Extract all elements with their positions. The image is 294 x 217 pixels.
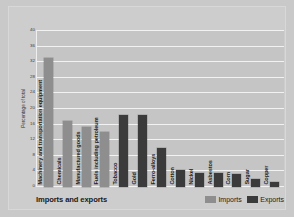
y-axis-tick-label: 24 <box>30 90 35 94</box>
bar-slot: Corn <box>227 31 246 187</box>
bar-category-label: Chemicals <box>57 158 63 185</box>
legend-entry[interactable]: Imports <box>205 196 242 203</box>
bar-category-label: Machinery and transportation equipment <box>38 80 44 185</box>
bar-category-label: Asbestos <box>208 161 214 185</box>
bar-slot: Machinery and transportation equipment <box>39 31 58 187</box>
y-axis-tick-label: 8 <box>33 153 35 157</box>
bar[interactable] <box>82 127 91 187</box>
bar-category-label: Fuels including petroleum <box>95 118 101 185</box>
bar[interactable] <box>195 173 204 187</box>
bar-category-label: Sugar <box>246 170 252 185</box>
bar-slot: Cotton <box>171 31 190 187</box>
y-axis-tick-label: 36 <box>30 43 35 47</box>
y-axis-tick-label: 28 <box>30 75 35 79</box>
y-axis-tick-label: 32 <box>30 59 35 63</box>
bar[interactable] <box>100 132 109 187</box>
legend-swatch <box>247 196 258 203</box>
y-axis-tick-label: 16 <box>30 121 35 125</box>
bar-category-label: Ferro-alloys <box>151 154 157 185</box>
bar[interactable] <box>176 170 185 187</box>
bar[interactable] <box>232 174 241 187</box>
legend-swatch <box>205 196 216 203</box>
y-axis-tick-label: 40 <box>30 28 35 32</box>
bar-group: Machinery and transportation equipmentCh… <box>37 31 284 187</box>
legend-label: Exports <box>260 196 284 203</box>
bar-category-label: Cotton <box>170 168 176 185</box>
y-axis-tick-label: 20 <box>30 106 35 110</box>
y-axis-title: Percentage of total <box>19 30 28 187</box>
bar-category-label: Manufactured goods <box>76 132 82 185</box>
bar-category-label: Corn <box>227 172 233 185</box>
bar-slot: Copper <box>265 31 284 187</box>
y-axis-tick-label: 0 <box>33 184 35 188</box>
y-axis-tick-label: 4 <box>33 168 35 172</box>
chart-footer: Imports and exports ImportsExports <box>36 192 284 206</box>
bar-slot: Sugar <box>246 31 265 187</box>
bar-category-label: Copper <box>264 166 270 185</box>
bar-slot: Nickel <box>190 31 209 187</box>
bar[interactable] <box>44 58 53 187</box>
bar[interactable] <box>119 115 128 187</box>
legend-entry[interactable]: Exports <box>247 196 284 203</box>
figure-frame: Percentage of total 0481216202428323640 … <box>8 6 286 210</box>
plot-area: 0481216202428323640 Machinery and transp… <box>36 30 284 187</box>
legend: ImportsExports <box>205 196 284 203</box>
bar-slot: Gold <box>133 31 152 187</box>
legend-label: Imports <box>218 196 241 203</box>
chart-title: Imports and exports <box>36 195 107 204</box>
bar-category-label: Nickel <box>189 169 195 185</box>
bar-slot: Asbestos <box>209 31 228 187</box>
bar[interactable] <box>138 115 147 187</box>
y-axis-tick-label: 12 <box>30 137 35 141</box>
chart-screenshot: Percentage of total 0481216202428323640 … <box>0 0 294 217</box>
bar-slot: Ferro-alloys <box>152 31 171 187</box>
bar[interactable] <box>214 173 223 187</box>
bar-slot: Tobacco <box>114 31 133 187</box>
bar[interactable] <box>251 179 260 187</box>
bar-category-label: Gold <box>133 173 139 185</box>
bar[interactable] <box>270 182 279 187</box>
bar[interactable] <box>157 148 166 187</box>
bar[interactable] <box>63 121 72 187</box>
bar-slot: Chemicals <box>58 31 77 187</box>
bar-category-label: Tobacco <box>114 163 120 185</box>
